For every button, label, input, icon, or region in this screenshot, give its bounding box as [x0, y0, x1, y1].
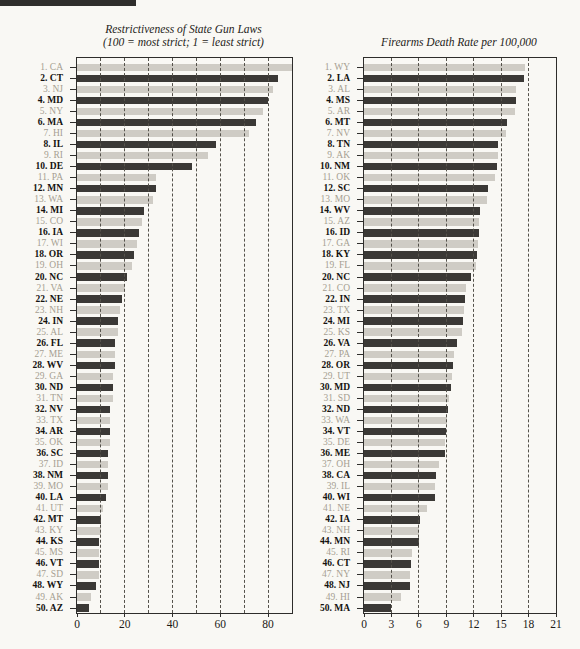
row-tick — [357, 210, 364, 211]
top-rule — [0, 0, 136, 6]
row-tick — [357, 398, 364, 399]
row-tick — [70, 310, 77, 311]
row-label: 3. NJ — [11, 84, 63, 95]
row-label: 4. MD — [11, 95, 63, 106]
bar — [364, 351, 454, 359]
bar — [364, 406, 448, 414]
bar — [364, 141, 498, 149]
row-label: 4. MS — [298, 95, 350, 106]
bar — [77, 185, 156, 193]
bar — [364, 218, 479, 226]
row-label: 33. WA — [298, 415, 350, 426]
row-tick — [357, 563, 364, 564]
row-label: 13. MO — [298, 194, 350, 205]
bar — [364, 130, 506, 138]
bar — [364, 439, 445, 447]
row-tick — [357, 254, 364, 255]
x-axis-label: 15 — [486, 618, 516, 630]
row-label: 40. LA — [11, 492, 63, 503]
row-tick — [357, 122, 364, 123]
x-axis-tick — [268, 613, 269, 617]
x-axis-tick — [391, 613, 392, 617]
row-label: 33. TX — [11, 415, 63, 426]
row-tick — [70, 177, 77, 178]
bar — [77, 373, 113, 381]
bar — [77, 582, 96, 590]
x-axis-tick — [473, 613, 474, 617]
row-label: 26. FL — [11, 338, 63, 349]
bar — [364, 450, 445, 458]
bar — [77, 406, 110, 414]
bar — [364, 560, 411, 568]
row-label: 12. MN — [11, 183, 63, 194]
x-axis-label: 21 — [541, 618, 571, 630]
bar — [77, 207, 144, 215]
row-tick — [70, 232, 77, 233]
row-label: 42. IA — [298, 514, 350, 525]
row-label: 30. ND — [11, 382, 63, 393]
row-label: 6. MT — [298, 117, 350, 128]
bar — [77, 75, 278, 83]
row-label: 21. VA — [11, 283, 63, 294]
row-tick — [70, 265, 77, 266]
bar — [77, 395, 113, 403]
bar — [364, 461, 439, 469]
death-rate-chart-title: Firearms Death Rate per 100,000 — [363, 36, 555, 49]
row-label: 25. AL — [11, 327, 63, 338]
bar — [77, 141, 216, 149]
bar — [364, 196, 487, 204]
bar — [77, 439, 110, 447]
bar — [77, 229, 139, 237]
row-tick — [357, 365, 364, 366]
row-tick — [357, 420, 364, 421]
row-tick — [70, 431, 77, 432]
row-label: 23. TX — [298, 305, 350, 316]
bar — [364, 284, 466, 292]
row-label: 18. OR — [11, 249, 63, 260]
bar — [77, 351, 115, 359]
row-label: 37. OH — [298, 459, 350, 470]
row-label: 1. CA — [11, 62, 63, 73]
bar — [364, 593, 401, 601]
gun-laws-plot: 1. CA2. CT3. NJ4. MD5. NY6. MA7. HI8. IL… — [76, 57, 293, 614]
row-label: 16. ID — [298, 227, 350, 238]
bar — [364, 582, 410, 590]
row-tick — [70, 398, 77, 399]
row-tick — [70, 210, 77, 211]
row-label: 49. AK — [11, 592, 63, 603]
gridline — [473, 58, 474, 613]
row-label: 37. ID — [11, 459, 63, 470]
row-label: 24. MI — [298, 316, 350, 327]
row-label: 6. MA — [11, 117, 63, 128]
gridline — [100, 58, 101, 613]
bar — [77, 549, 99, 557]
row-label: 38. CA — [298, 470, 350, 481]
row-label: 31. SD — [298, 393, 350, 404]
x-axis-tick — [556, 613, 557, 617]
row-label: 41. UT — [11, 503, 63, 514]
death-rate-title-line: Firearms Death Rate per 100,000 — [363, 36, 555, 49]
row-tick — [70, 420, 77, 421]
bar — [77, 472, 108, 480]
row-tick — [70, 188, 77, 189]
row-label: 47. SD — [11, 569, 63, 580]
row-tick — [357, 464, 364, 465]
x-axis-tick — [220, 613, 221, 617]
bar — [77, 516, 101, 524]
x-axis-tick — [77, 613, 78, 617]
row-label: 25. KS — [298, 327, 350, 338]
row-tick — [357, 574, 364, 575]
row-tick — [70, 343, 77, 344]
row-label: 9. RI — [11, 150, 63, 161]
gridline — [196, 58, 197, 613]
row-label: 29. GA — [11, 371, 63, 382]
row-tick — [70, 497, 77, 498]
row-label: 41. NE — [298, 503, 350, 514]
gun-laws-title-line: Restrictiveness of State Gun Laws — [76, 23, 291, 36]
row-label: 23. NH — [11, 305, 63, 316]
row-tick — [70, 486, 77, 487]
row-label: 22. NE — [11, 294, 63, 305]
row-tick — [357, 442, 364, 443]
x-axis-label: 18 — [514, 618, 544, 630]
row-label: 16. IA — [11, 227, 63, 238]
